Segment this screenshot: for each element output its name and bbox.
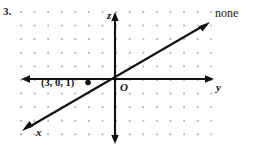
x-axis-arrow-upperright bbox=[199, 22, 210, 32]
coordinate-axes-figure: 3. none z y x O (3, 0, 1) bbox=[0, 0, 253, 150]
z-axis-label: z bbox=[107, 10, 111, 21]
z-axis-arrow-up bbox=[111, 12, 118, 21]
x-axis-arrow-lowerleft bbox=[22, 121, 33, 131]
x-axis-label: x bbox=[36, 127, 42, 138]
origin-label: O bbox=[120, 82, 128, 93]
z-axis-arrow-down bbox=[111, 135, 118, 144]
plotted-point-marker bbox=[85, 80, 91, 86]
y-axis-arrow-right bbox=[205, 75, 214, 83]
plotted-point-label: (3, 0, 1) bbox=[41, 78, 74, 89]
y-axis-label: y bbox=[216, 82, 221, 93]
y-axis-arrow-left bbox=[21, 75, 30, 83]
